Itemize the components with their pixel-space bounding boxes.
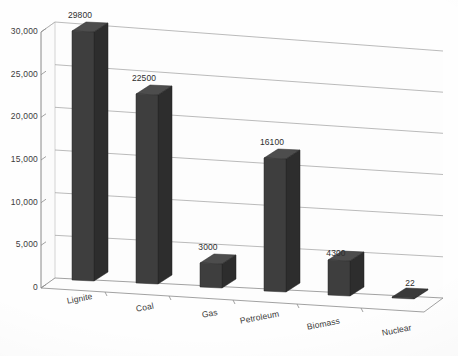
x-category-label-petroleum: Petroleum <box>239 308 280 325</box>
y-tick-label-0: 0 <box>0 282 38 292</box>
chart-labels-layer: 30,000 25,000 20,000 15,000 10,000 5,000… <box>0 0 458 356</box>
data-label-coal: 22500 <box>122 73 166 83</box>
y-tick-label-25000: 25,000 <box>0 69 38 79</box>
data-label-biomass: 4300 <box>314 248 358 258</box>
y-tick-label-5000: 5,000 <box>0 239 38 249</box>
y-tick-label-10000: 10,000 <box>0 197 38 207</box>
data-label-lignite: 29800 <box>58 10 102 20</box>
y-tick-label-15000: 15,000 <box>0 154 38 164</box>
x-category-label-lignite: Lignite <box>66 291 93 306</box>
y-tick-label-30000: 30,000 <box>0 26 38 36</box>
x-category-label-biomass: Biomass <box>306 316 341 332</box>
x-category-label-nuclear: Nuclear <box>381 322 412 338</box>
y-tick-label-20000: 20,000 <box>0 111 38 121</box>
data-label-petroleum: 16100 <box>250 137 294 147</box>
chart-container: 30,000 25,000 20,000 15,000 10,000 5,000… <box>0 0 458 356</box>
x-category-label-coal: Coal <box>135 301 154 314</box>
data-label-gas: 3000 <box>186 242 230 252</box>
x-category-label-gas: Gas <box>201 307 219 320</box>
data-label-nuclear: 22 <box>388 278 432 288</box>
